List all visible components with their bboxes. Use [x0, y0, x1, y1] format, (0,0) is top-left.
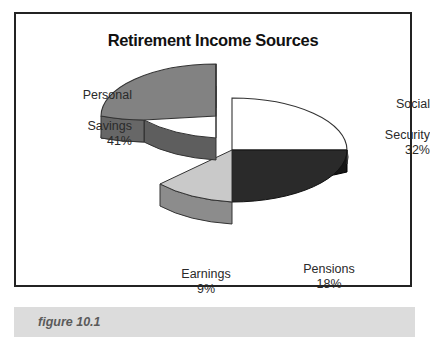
slice-value-pensions: 18% [274, 277, 384, 293]
pie-slice-social-security-top [232, 98, 347, 150]
slice-label-pensions-line1: Pensions [303, 262, 354, 276]
figure-frame: Retirement Income Sources Personal [14, 12, 412, 287]
slice-label-personal-savings-line2: Savings [88, 119, 132, 133]
slice-value-personal-savings: 41% [30, 134, 132, 150]
slice-value-earnings: 9% [156, 282, 256, 298]
slice-label-social-security-line2: Security [385, 128, 430, 142]
slice-label-social-security-line1: Social [396, 97, 430, 111]
slice-value-social-security: 32% [334, 143, 430, 159]
pie-slice-personal-savings-side [144, 120, 216, 160]
figure-caption-band: figure 10.1 [14, 307, 415, 337]
slice-label-earnings: Earnings 9% [156, 251, 256, 313]
slice-label-pensions: Pensions 18% [274, 246, 384, 308]
slice-label-earnings-line1: Earnings [181, 267, 230, 281]
slice-label-personal-savings: Personal Savings 41% [30, 72, 132, 165]
slice-label-social-security: Social Security 32% [334, 81, 430, 174]
slice-label-personal-savings-line1: Personal [83, 88, 132, 102]
pie-slice-pensions-top [232, 150, 347, 202]
figure-caption-text: figure 10.1 [38, 315, 101, 329]
